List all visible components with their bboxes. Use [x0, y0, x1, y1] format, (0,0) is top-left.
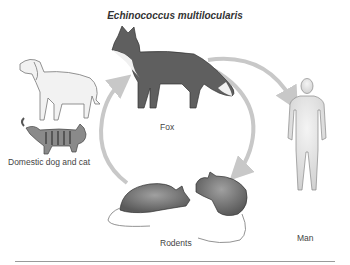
label-man: Man — [297, 233, 314, 243]
lifecycle-illustration — [0, 0, 350, 265]
label-fox: Fox — [160, 122, 174, 132]
mouse-icon — [196, 172, 247, 243]
label-dog-cat: Domestic dog and cat — [8, 157, 90, 167]
dog-icon — [20, 59, 100, 120]
rat-icon — [108, 184, 190, 227]
label-rodents: Rodents — [160, 238, 192, 248]
human-icon — [288, 79, 326, 191]
fox-icon — [112, 26, 234, 108]
bottom-rule — [15, 261, 335, 262]
cat-icon — [22, 118, 86, 154]
arrow-rodents-to-fox — [101, 82, 127, 183]
